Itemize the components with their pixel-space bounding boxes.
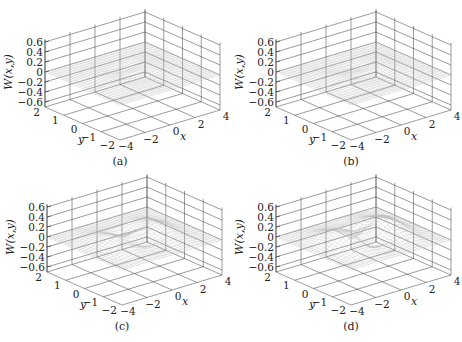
x-tick-label: −4: [118, 140, 134, 152]
z-axis-label: W(x,y): [4, 219, 17, 255]
figure-canvas: 0.60.40.20−0.2−0.4−0.6W(x,y)210−1−2y−4−2…: [0, 0, 462, 342]
y-tick-label: 1: [283, 279, 290, 291]
x-tick-label: 0: [175, 290, 182, 302]
panel-caption-d: (d): [343, 320, 359, 333]
x-axis-label: x: [411, 130, 418, 143]
x-tick-label: 0: [404, 290, 411, 302]
x-tick-label: 0: [404, 125, 411, 137]
y-tick-label: −2: [331, 139, 346, 151]
x-tick-label: 2: [429, 283, 436, 295]
x-tick-label: 4: [454, 275, 461, 287]
x-tick-label: −4: [349, 305, 365, 317]
x-tick-label: 2: [200, 283, 207, 295]
y-axis-label: y: [79, 298, 87, 311]
y-tick-label: 1: [283, 114, 290, 126]
z-axis-label: W(x,y): [233, 219, 246, 255]
y-axis-label: y: [308, 133, 316, 146]
panel-caption-b: (b): [343, 155, 359, 168]
x-tick-label: −2: [374, 298, 389, 310]
y-tick-label: −2: [102, 304, 117, 316]
x-tick-label: −4: [349, 140, 365, 152]
y-tick-label: −2: [331, 304, 346, 316]
x-axis-label: x: [411, 295, 418, 308]
y-tick-label: 0: [73, 288, 80, 300]
x-tick-label: −2: [143, 133, 158, 145]
y-axis-label: y: [308, 298, 316, 311]
panel-caption-a: (a): [112, 155, 127, 168]
x-tick-label: −2: [145, 298, 160, 310]
x-tick-label: −2: [374, 133, 389, 145]
x-tick-label: 4: [454, 110, 461, 122]
panel-b: 0.60.40.20−0.2−0.4−0.6W(x,y)210−1−2y−4−2…: [233, 10, 461, 169]
y-axis-label: y: [77, 133, 85, 146]
panel-d: 0.60.40.20−0.2−0.4−0.6W(x,y)210−1−2y−4−2…: [233, 175, 461, 334]
y-tick-label: 2: [35, 271, 42, 283]
panel-caption-c: (c): [115, 320, 130, 333]
x-axis-label: x: [180, 130, 187, 143]
y-tick-label: 2: [264, 271, 271, 283]
y-tick-label: −2: [100, 139, 115, 151]
panel-c: 0.60.40.20−0.2−0.4−0.6W(x,y)210−1−2y−4−2…: [4, 175, 232, 334]
x-tick-label: 2: [429, 118, 436, 130]
z-axis-label: W(x,y): [233, 54, 246, 90]
y-tick-label: 2: [33, 106, 40, 118]
x-axis-label: x: [182, 295, 189, 308]
x-tick-label: 0: [173, 125, 180, 137]
x-tick-label: −4: [120, 305, 136, 317]
y-tick-label: 1: [54, 279, 61, 291]
y-tick-label: 0: [302, 123, 309, 135]
x-tick-label: 2: [198, 118, 205, 130]
panel-a: 0.60.40.20−0.2−0.4−0.6W(x,y)210−1−2y−4−2…: [2, 10, 230, 169]
y-tick-label: 0: [302, 288, 309, 300]
x-tick-label: 4: [223, 110, 230, 122]
y-tick-label: 0: [71, 123, 78, 135]
y-tick-label: 2: [264, 106, 271, 118]
y-tick-label: 1: [52, 114, 59, 126]
x-tick-label: 4: [225, 275, 232, 287]
z-axis-label: W(x,y): [2, 54, 15, 90]
